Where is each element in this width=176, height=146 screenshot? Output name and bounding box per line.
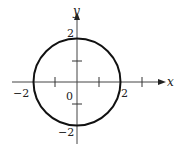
y-tick-label-2: 2: [67, 27, 74, 40]
x-axis-arrow-icon: [158, 79, 166, 85]
y-axis-label: y: [72, 4, 80, 18]
y-tick-label-neg2: −2: [58, 126, 74, 139]
x-axis-label: x: [167, 75, 174, 89]
x-tick-label-2: 2: [121, 87, 128, 100]
x-tick-label-neg2: −2: [13, 87, 29, 100]
circle-diagram: y x 0 −2 2 2 −2: [0, 0, 176, 146]
origin-label: 0: [66, 90, 73, 103]
